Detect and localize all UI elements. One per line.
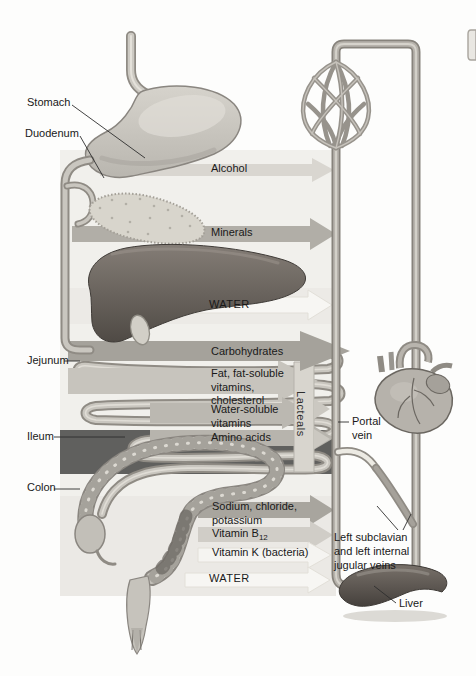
liver-label: Liver bbox=[399, 597, 423, 610]
thoracic-duct bbox=[338, 451, 413, 524]
vitamin-b12-text: Vitamin B bbox=[212, 527, 259, 539]
vitamin-b12-subscript: 12 bbox=[259, 533, 268, 542]
portal-vein-label: Portal vein bbox=[352, 414, 381, 442]
absorption-diagram: Stomach Duodenum Jejunum Ileum Colon Alc… bbox=[0, 0, 476, 676]
colon-label: Colon bbox=[27, 481, 56, 494]
carbohydrates-label: Carbohydrates bbox=[211, 345, 283, 358]
water-soluble-label: Water-soluble vitamins bbox=[211, 403, 278, 430]
vitamin-b12-label: Vitamin B12 bbox=[212, 527, 268, 544]
subclavian-pointer-1 bbox=[377, 506, 398, 530]
jejunum-label: Jejunum bbox=[27, 354, 69, 367]
esophagus bbox=[131, 36, 147, 94]
cecum bbox=[75, 515, 105, 553]
alcohol-label: Alcohol bbox=[211, 162, 247, 175]
minerals-label: Minerals bbox=[211, 226, 253, 239]
stomach-label: Stomach bbox=[27, 96, 70, 109]
vitamin-k-label: Vitamin K (bacteria) bbox=[212, 546, 308, 559]
water-upper-label: WATER bbox=[209, 298, 250, 311]
water-lower-label: WATER bbox=[209, 572, 250, 585]
lacteals-label: Lacteals bbox=[294, 391, 307, 471]
capillary-network bbox=[303, 62, 369, 148]
sodium-label: Sodium, chloride, potassium bbox=[212, 500, 297, 527]
rectum-organ bbox=[127, 576, 150, 654]
subclavian-label: Left subclavian and left internal jugula… bbox=[334, 530, 409, 572]
fat-label: Fat, fat-soluble vitamins, cholesterol bbox=[211, 367, 284, 408]
page-edge-fragment bbox=[468, 30, 476, 60]
liver-small-organ bbox=[339, 565, 447, 622]
ileum-label: Ileum bbox=[27, 430, 54, 443]
duodenum-label: Duodenum bbox=[25, 127, 79, 140]
amino-acids-label: Amino acids bbox=[211, 431, 271, 444]
